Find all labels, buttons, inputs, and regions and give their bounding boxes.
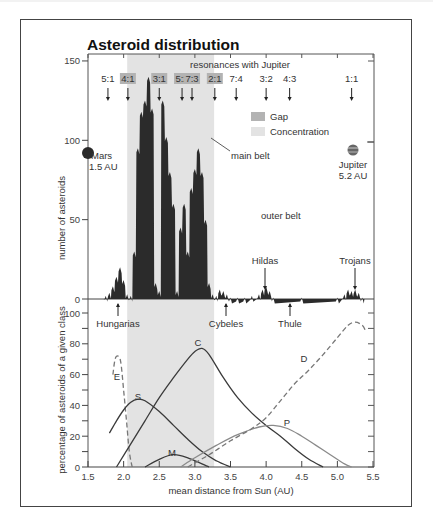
resonance-subtitle: resonances with Jupiter bbox=[190, 59, 290, 70]
svg-text:0: 0 bbox=[75, 294, 80, 305]
asteroid-distribution-figure: Asteroid distribution 050100150 number o… bbox=[0, 0, 433, 528]
legend-concentration-label: Concentration bbox=[270, 126, 329, 137]
curve-label-s: S bbox=[135, 391, 141, 402]
upper-right-ticks bbox=[368, 61, 374, 142]
x-axis-ticks: 1.52.02.53.03.54.04.55.05.5 bbox=[81, 461, 379, 482]
svg-text:80: 80 bbox=[69, 338, 80, 349]
jupiter-label: Jupiter bbox=[339, 159, 368, 170]
curve-d bbox=[188, 322, 366, 467]
legend-gap-label: Gap bbox=[270, 111, 288, 122]
svg-text:20: 20 bbox=[69, 431, 80, 442]
svg-text:2.5: 2.5 bbox=[153, 471, 166, 482]
svg-text:150: 150 bbox=[64, 55, 80, 66]
svg-text:1.5: 1.5 bbox=[81, 471, 94, 482]
svg-text:5:1: 5:1 bbox=[101, 73, 114, 84]
hungarias-label: Hungarias bbox=[96, 318, 140, 329]
svg-text:3:1: 3:1 bbox=[153, 73, 166, 84]
svg-text:3.0: 3.0 bbox=[188, 471, 201, 482]
outer-belt-label: outer belt bbox=[261, 210, 301, 221]
svg-text:100: 100 bbox=[64, 135, 80, 146]
svg-text:2.0: 2.0 bbox=[117, 471, 130, 482]
legend-concentration-swatch bbox=[251, 127, 265, 136]
svg-text:7:3: 7:3 bbox=[185, 73, 198, 84]
lower-plot: 020406080100 1.52.02.53.03.54.04.55.05.5… bbox=[56, 306, 380, 496]
jupiter-icon bbox=[348, 145, 359, 156]
curve-label-p: P bbox=[284, 417, 290, 428]
svg-text:1:1: 1:1 bbox=[345, 73, 358, 84]
lower-right-ticks bbox=[368, 313, 374, 467]
svg-text:4.0: 4.0 bbox=[260, 471, 273, 482]
svg-text:4:3: 4:3 bbox=[283, 73, 296, 84]
upper-y-axis-label: number of asteroids bbox=[56, 176, 67, 260]
svg-text:5.0: 5.0 bbox=[331, 471, 344, 482]
legend-gap-swatch bbox=[251, 112, 265, 121]
curve-label-c: C bbox=[195, 337, 202, 348]
svg-text:3:2: 3:2 bbox=[260, 73, 273, 84]
svg-text:60: 60 bbox=[69, 369, 80, 380]
lower-y-axis-ticks: 020406080100 bbox=[64, 308, 88, 473]
svg-text:40: 40 bbox=[69, 400, 80, 411]
svg-text:2:1: 2:1 bbox=[208, 73, 221, 84]
thule-label: Thule bbox=[278, 318, 302, 329]
trojans-label: Trojans bbox=[339, 255, 371, 266]
svg-text:7:4: 7:4 bbox=[230, 73, 243, 84]
jupiter-distance: 5.2 AU bbox=[339, 170, 368, 181]
cybeles-label: Cybeles bbox=[209, 318, 244, 329]
curve-label-e: E bbox=[114, 371, 120, 382]
upper-plot: 050100150 number of asteroids resonances… bbox=[56, 54, 374, 467]
mars-distance: 1.5 AU bbox=[89, 161, 118, 172]
lower-y-axis-label: percentage of asteroids of a given class bbox=[56, 306, 67, 474]
hildas-label: Hildas bbox=[252, 255, 279, 266]
svg-text:0: 0 bbox=[75, 462, 80, 473]
svg-text:5.5: 5.5 bbox=[366, 471, 379, 482]
mars-label: Mars bbox=[91, 150, 112, 161]
svg-text:4.5: 4.5 bbox=[295, 471, 308, 482]
svg-text:50: 50 bbox=[69, 214, 80, 225]
legend: Gap Concentration bbox=[251, 111, 329, 137]
main-belt-label: main belt bbox=[231, 150, 270, 161]
upper-y-axis-ticks: 050100150 bbox=[64, 55, 88, 304]
svg-text:4:1: 4:1 bbox=[121, 73, 134, 84]
curve-label-m: M bbox=[168, 447, 176, 458]
svg-text:3.5: 3.5 bbox=[224, 471, 237, 482]
curve-label-d: D bbox=[301, 353, 308, 364]
x-axis-label: mean distance from Sun (AU) bbox=[168, 485, 293, 496]
chart-title: Asteroid distribution bbox=[87, 36, 239, 53]
